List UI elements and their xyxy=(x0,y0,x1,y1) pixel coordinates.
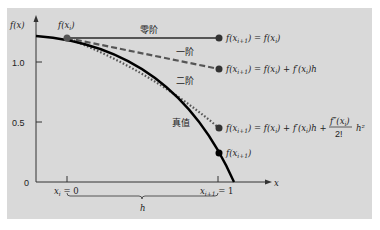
zero-order-label: 零阶 xyxy=(140,24,158,35)
y-axis-label: f(x) xyxy=(9,20,25,30)
y-axis-arrow-icon xyxy=(34,15,39,22)
second-order-label: 二阶 xyxy=(176,75,194,86)
y-tick-05: 0.5 xyxy=(12,118,25,128)
true-value-point xyxy=(216,150,223,157)
second-order-formula: f(xi+1) = f(xi) + f′(xi)h + xyxy=(225,123,327,134)
true-value-curve xyxy=(36,36,234,182)
zero-order-formula: f(xi+1) = f(xi) xyxy=(225,33,280,44)
second-order-line xyxy=(67,38,219,128)
first-order-point xyxy=(216,66,223,73)
h-label: h xyxy=(140,203,145,213)
second-order-fraction-num: f″(xi) xyxy=(329,116,350,127)
y-tick-0: 0 xyxy=(24,178,29,188)
start-point-label: f(xi) xyxy=(57,20,75,31)
true-value-label: 真值 xyxy=(172,117,190,128)
x-tick-xi1: xi+1 = 1 xyxy=(200,186,234,197)
true-value-point-label: f(xi+1) xyxy=(225,148,251,159)
taylor-approximation-diagram: f(x) x 1.0 0.5 0 xi = 0 xi+1 = 1 h f(xi)… xyxy=(0,0,380,230)
second-order-h2: h² xyxy=(356,123,365,133)
x-axis-arrow-icon xyxy=(265,180,272,185)
first-order-label: 一阶 xyxy=(176,46,194,57)
zero-order-point xyxy=(216,35,223,42)
second-order-point xyxy=(216,125,223,132)
first-order-formula: f(xi+1) = f(xi) + f′(xi)h xyxy=(225,64,317,75)
first-order-line xyxy=(67,38,219,69)
second-order-fraction-den: 2! xyxy=(335,129,343,139)
y-axis xyxy=(34,15,39,182)
y-tick-1: 1.0 xyxy=(12,58,25,68)
x-tick-xi: xi = 0 xyxy=(54,186,79,197)
x-axis xyxy=(36,180,272,185)
x-axis-label: x xyxy=(274,178,279,188)
h-brace xyxy=(67,193,218,199)
start-point xyxy=(64,35,71,42)
